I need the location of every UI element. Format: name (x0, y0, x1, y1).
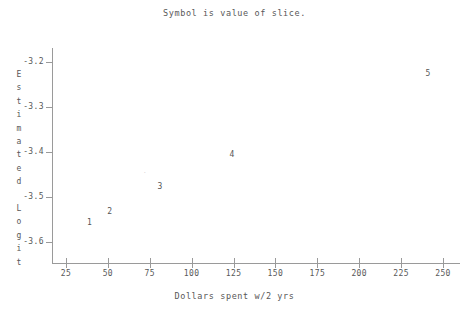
y-axis-tick (46, 152, 53, 153)
x-axis-tick (401, 258, 402, 268)
x-axis-tick-label: 225 (386, 269, 416, 278)
chart-title: Symbol is value of slice. (0, 8, 469, 18)
x-axis-tick-label: 150 (260, 269, 290, 278)
x-axis-tick (192, 258, 193, 268)
x-axis-tick (317, 258, 318, 268)
x-axis-tick-label: 250 (428, 269, 458, 278)
x-axis-tick (359, 258, 360, 268)
y-axis-label-char: e (14, 164, 24, 173)
x-axis-tick-label: 125 (219, 269, 249, 278)
x-axis-tick-label: 100 (177, 269, 207, 278)
x-axis-tick-label: 50 (93, 269, 123, 278)
x-axis-tick (443, 258, 444, 268)
y-axis-label-char: i (14, 244, 24, 253)
y-axis-label-char: g (14, 231, 24, 240)
y-axis-label-char: E (14, 70, 24, 79)
y-axis-label-char: a (14, 137, 24, 146)
x-axis-tick (234, 258, 235, 268)
data-point-symbol: 2 (105, 207, 115, 216)
x-axis-tick-label: 25 (51, 269, 81, 278)
x-axis-line (52, 263, 460, 264)
y-axis-label-char: s (14, 83, 24, 92)
y-axis-label-char: i (14, 110, 24, 119)
y-axis-tick (46, 107, 53, 108)
y-axis-label-char: t (14, 97, 24, 106)
y-axis-label-char: L (14, 204, 24, 213)
y-axis-tick (46, 242, 53, 243)
x-axis-tick-label: 75 (135, 269, 165, 278)
y-axis-tick (46, 62, 53, 63)
y-axis-label-char: o (14, 217, 24, 226)
data-point-symbol: 4 (227, 150, 237, 159)
x-axis-tick (275, 258, 276, 268)
y-axis-label-char: t (14, 258, 24, 267)
y-axis-tick-label: -3.5 (20, 192, 44, 201)
x-axis-tick (108, 258, 109, 268)
data-point-symbol: . (140, 167, 150, 174)
y-axis-label-char: t (14, 150, 24, 159)
data-point-symbol: 1 (84, 218, 94, 227)
scatter-plot-figure: Symbol is value of slice. -3.2-3.3-3.4-3… (0, 0, 469, 315)
x-axis-tick (150, 258, 151, 268)
data-point-symbol: 3 (155, 182, 165, 191)
x-axis-tick-label: 200 (344, 269, 374, 278)
y-axis-line (52, 48, 53, 264)
x-axis-tick-label: 175 (302, 269, 332, 278)
y-axis-tick (46, 197, 53, 198)
data-point-symbol: 5 (423, 69, 433, 78)
y-axis-tick-label: -3.2 (20, 57, 44, 66)
x-axis-label: Dollars spent w/2 yrs (0, 291, 469, 301)
x-axis-tick (66, 258, 67, 268)
y-axis-label-char: d (14, 177, 24, 186)
y-axis-label-char: m (14, 124, 24, 133)
